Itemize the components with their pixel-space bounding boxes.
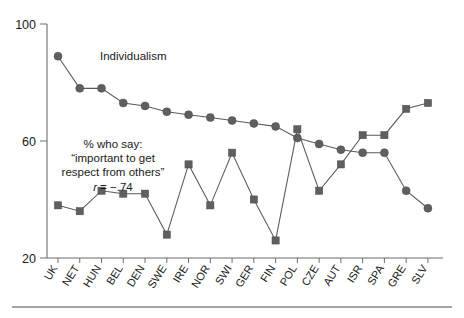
x-tick-label-aut: AUT <box>321 262 343 287</box>
data-point-cze-individualism <box>315 140 323 148</box>
data-point-isr-respect <box>359 132 366 139</box>
x-tick-label-ger: GER <box>233 263 256 290</box>
chart-annotations: Individualism % who say: “important to g… <box>62 50 167 193</box>
data-point-gre-individualism <box>402 187 410 195</box>
x-tick-label-den: DEN <box>124 263 147 289</box>
data-point-aut-individualism <box>337 146 345 154</box>
x-tick-label-swe: SWE <box>145 263 168 291</box>
x-tick-label-nor: NOR <box>189 263 212 290</box>
x-tick-label-spa: SPA <box>365 262 387 287</box>
individualism-label: Individualism <box>100 50 166 62</box>
data-point-ire-respect <box>185 161 192 168</box>
data-point-slv-respect <box>424 99 431 106</box>
data-point-ger-respect <box>250 196 257 203</box>
correlation-annotation: r= −.74 <box>93 181 133 193</box>
data-point-spa-respect <box>381 132 388 139</box>
x-tick-marks <box>58 258 428 263</box>
data-point-uk-respect <box>54 202 61 209</box>
data-point-ger-individualism <box>250 119 258 127</box>
data-point-isr-individualism <box>359 149 367 157</box>
x-tick-labels: UKNETHUNBELDENSWEIRENORSWIGERFINPOLCZEAU… <box>41 262 430 290</box>
respect-label-line-3: respect from others” <box>62 166 165 178</box>
y-tick-label-60: 60 <box>22 135 36 149</box>
data-point-fin-respect <box>272 237 279 244</box>
correlation-value: = −.74 <box>100 181 133 193</box>
data-point-den-individualism <box>141 102 149 110</box>
data-point-hun-individualism <box>98 84 106 92</box>
y-tick-label-20: 20 <box>22 252 36 266</box>
chart-figure: 100 60 20 UKNETHUNBELDENSWEIRENORSWIGERF… <box>0 0 464 318</box>
y-axis: 100 60 20 <box>15 18 47 266</box>
x-tick-label-isr: ISR <box>344 263 364 285</box>
respect-label-line-2: “important to get <box>71 152 156 164</box>
x-tick-label-net: NET <box>60 262 82 287</box>
data-point-spa-individualism <box>380 149 388 157</box>
x-tick-label-uk: UK <box>41 262 60 282</box>
data-point-ire-individualism <box>185 111 193 119</box>
x-tick-label-gre: GRE <box>385 263 408 290</box>
x-tick-label-cze: CZE <box>299 263 321 288</box>
data-point-net-respect <box>76 208 83 215</box>
x-tick-label-hun: HUN <box>80 263 103 290</box>
data-point-gre-respect <box>403 105 410 112</box>
data-point-swe-respect <box>163 231 170 238</box>
data-point-slv-individualism <box>424 204 432 212</box>
respect-label-line-1: % who say: <box>84 138 143 150</box>
data-point-pol-respect <box>294 126 301 133</box>
data-point-den-respect <box>141 190 148 197</box>
x-axis: UKNETHUNBELDENSWEIRENORSWIGERFINPOLCZEAU… <box>41 258 443 290</box>
x-tick-label-bel: BEL <box>104 263 125 287</box>
correlation-r-symbol: r <box>93 181 98 193</box>
data-point-cze-respect <box>316 187 323 194</box>
x-tick-label-fin: FIN <box>258 263 278 284</box>
data-point-nor-individualism <box>206 114 214 122</box>
data-point-swe-individualism <box>163 108 171 116</box>
data-point-swi-individualism <box>228 117 236 125</box>
data-point-aut-respect <box>337 161 344 168</box>
x-tick-label-swi: SWI <box>213 263 234 287</box>
x-tick-label-pol: POL <box>277 263 299 288</box>
data-point-fin-individualism <box>272 122 280 130</box>
chart-svg: 100 60 20 UKNETHUNBELDENSWEIRENORSWIGERF… <box>0 0 464 318</box>
data-point-uk-individualism <box>54 52 62 60</box>
data-point-swi-respect <box>228 149 235 156</box>
data-point-nor-respect <box>207 202 214 209</box>
x-tick-label-ire: IRE <box>170 263 190 285</box>
x-tick-label-slv: SLV <box>409 262 430 286</box>
data-point-bel-individualism <box>119 99 127 107</box>
y-tick-label-100: 100 <box>15 18 36 32</box>
data-point-net-individualism <box>76 84 84 92</box>
